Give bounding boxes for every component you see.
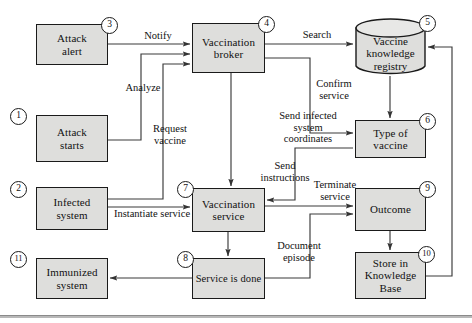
- node-vaccination-broker[interactable]: Vaccination broker: [192, 23, 265, 73]
- edge-label-terminate-service: Terminate service: [303, 179, 367, 202]
- edge-label-search: Search: [288, 29, 346, 41]
- node-vaccination-service[interactable]: Vaccination service: [192, 188, 265, 232]
- edge-label-send-infected-coordinates: Send infected system coordinates: [268, 110, 348, 145]
- badge-vaccination-broker: 4: [258, 16, 275, 33]
- badge-attack-starts: 1: [10, 108, 27, 125]
- badge-immunized-system: 11: [10, 251, 27, 268]
- node-vaccination-broker-label: Vaccination broker: [200, 36, 257, 61]
- node-service-is-done[interactable]: Service is done: [192, 258, 265, 299]
- node-vaccination-service-label: Vaccination service: [200, 198, 257, 223]
- badge-outcome: 9: [419, 181, 436, 198]
- node-immunized-system[interactable]: Immunized system: [36, 258, 108, 299]
- badge-type-of-vaccine: 6: [419, 113, 436, 130]
- badge-service-is-done: 8: [177, 251, 194, 268]
- badge-infected-system: 2: [10, 181, 27, 198]
- edge-label-request-vaccine: Request vaccine: [141, 123, 199, 146]
- node-type-of-vaccine-label: Type of vaccine: [371, 127, 409, 152]
- edge-label-confirm-service: Confirm service: [303, 78, 365, 101]
- edge-label-document-episode: Document episode: [265, 240, 333, 263]
- diagram-canvas: Attack alert Vaccination broker Vaccine …: [0, 0, 472, 323]
- node-vaccine-knowledge-registry[interactable]: Vaccine knowledge registry: [355, 18, 426, 76]
- badge-vaccine-knowledge-registry: 5: [419, 15, 436, 32]
- node-outcome-label: Outcome: [368, 203, 413, 215]
- node-attack-starts[interactable]: Attack starts: [36, 115, 108, 162]
- node-service-is-done-label: Service is done: [194, 273, 264, 285]
- node-attack-starts-label: Attack starts: [55, 126, 89, 151]
- node-store-in-knowledge-base-label: Store in Knowledge Base: [363, 257, 419, 294]
- edge-store-to-registry: [426, 47, 452, 276]
- edge-label-instantiate-service: Instantiate service: [106, 208, 198, 220]
- badge-store-in-knowledge-base: 10: [418, 246, 435, 263]
- node-infected-system-label: Infected system: [52, 196, 93, 221]
- node-attack-alert-label: Attack alert: [55, 32, 89, 57]
- node-vaccine-knowledge-registry-label: Vaccine knowledge registry: [355, 35, 426, 72]
- node-store-in-knowledge-base[interactable]: Store in Knowledge Base: [355, 252, 426, 299]
- badge-vaccination-service: 7: [177, 181, 194, 198]
- node-type-of-vaccine[interactable]: Type of vaccine: [355, 120, 426, 158]
- footer-rule: [0, 315, 472, 318]
- node-attack-alert[interactable]: Attack alert: [36, 24, 108, 65]
- node-infected-system[interactable]: Infected system: [36, 187, 108, 230]
- edge-label-notify: Notify: [128, 30, 188, 42]
- edge-label-analyze: Analyze: [110, 82, 176, 94]
- badge-attack-alert: 3: [101, 17, 118, 34]
- node-immunized-system-label: Immunized system: [45, 266, 100, 291]
